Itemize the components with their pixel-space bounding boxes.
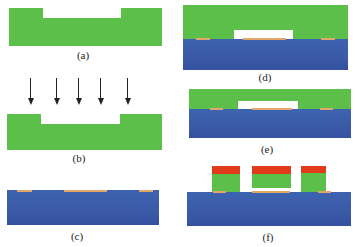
panel-label-a: (a)	[68, 49, 98, 61]
red-cap-left	[212, 166, 240, 174]
arrow-2	[54, 78, 60, 105]
blue-substrate	[7, 190, 159, 225]
panel-label-f: (f)	[253, 231, 283, 243]
green-layer-left-post	[7, 114, 41, 150]
arrow-down-icon	[76, 98, 82, 105]
panel-label-e: (e)	[252, 143, 282, 155]
orange-pad-right	[320, 108, 333, 110]
arrow-3	[76, 78, 82, 105]
blue-substrate	[183, 39, 348, 70]
green-layer-recess-base	[41, 124, 120, 150]
orange-pad-left	[196, 38, 210, 40]
green-layer-right-post	[121, 8, 162, 46]
orange-pad-left	[210, 108, 223, 110]
arrow-1	[28, 78, 34, 105]
orange-pad-center	[243, 38, 286, 40]
arrow-5	[125, 78, 131, 105]
process-flow-diagram: (a) (b) (c)	[0, 0, 355, 247]
arrow-down-icon	[54, 98, 60, 105]
red-cap-center	[252, 166, 291, 174]
orange-pad-left	[17, 190, 32, 192]
arrow-down-icon	[98, 98, 104, 105]
green-layer-recess-base	[43, 18, 121, 46]
green-layer-right-post	[120, 114, 162, 150]
orange-pad-center	[64, 190, 107, 192]
panel-label-d: (d)	[250, 71, 280, 83]
orange-pad-right	[318, 191, 331, 193]
blue-substrate	[189, 109, 351, 138]
orange-pad-left	[213, 191, 226, 193]
red-cap-right	[301, 166, 326, 173]
orange-pad-center	[252, 108, 292, 110]
arrow-down-icon	[28, 98, 34, 105]
panel-label-b: (b)	[64, 152, 94, 164]
arrow-down-icon	[125, 98, 131, 105]
green-block-left	[212, 174, 240, 192]
green-block-center	[252, 174, 291, 188]
orange-pad-right	[321, 38, 335, 40]
green-block-right	[301, 173, 326, 192]
green-layer-left-post	[9, 8, 43, 46]
panel-label-c: (c)	[62, 230, 92, 242]
blue-substrate	[187, 192, 351, 226]
orange-pad-right	[139, 190, 153, 192]
arrow-4	[98, 78, 104, 105]
orange-pad-center	[252, 191, 290, 193]
